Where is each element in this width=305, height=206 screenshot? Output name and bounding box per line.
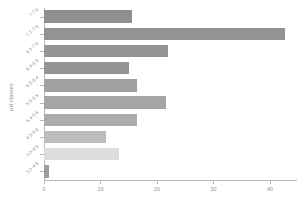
bar (44, 148, 119, 160)
bar-row (44, 96, 297, 108)
bar (44, 131, 106, 143)
bar-row (44, 28, 297, 40)
x-axis-tick (270, 180, 271, 184)
y-axis-tick-label: 6.4-6.5 (25, 58, 40, 72)
x-axis-tick (213, 180, 214, 184)
bar-row (44, 79, 297, 91)
bar (44, 10, 132, 22)
bar (44, 114, 137, 126)
bar-row (44, 148, 297, 160)
bar-row (44, 62, 297, 74)
bar (44, 79, 137, 91)
x-axis-tick-label: 30 (210, 186, 216, 192)
y-axis-tick (40, 137, 44, 138)
y-axis-tick (40, 103, 44, 104)
bar (44, 28, 285, 40)
y-axis-tick-label: 3.5-4.5 (25, 144, 40, 158)
y-axis-tick (40, 120, 44, 121)
bar (44, 62, 129, 74)
y-axis-tick-label: 3.5-4.5 (25, 161, 40, 175)
y-axis-tick-labels: 7-7.67.1-7.56.5-7.56.4-6.55.5-6.45.5-5.5… (0, 0, 44, 172)
bar-row (44, 114, 297, 126)
y-axis-tick-label: 5.5-5.5 (25, 92, 40, 106)
x-axis-tick (157, 180, 158, 184)
y-axis-tick (40, 34, 44, 35)
bar (44, 165, 49, 177)
y-axis-tick (40, 17, 44, 18)
bar (44, 45, 168, 57)
bar-row (44, 45, 297, 57)
x-axis-tick (100, 180, 101, 184)
x-axis-line (44, 180, 297, 181)
y-axis-tick (40, 68, 44, 69)
y-axis-tick-label: 7.1-7.5 (25, 23, 40, 37)
y-axis-tick (40, 85, 44, 86)
bar-row (44, 131, 297, 143)
x-axis-tick-label: 10 (97, 186, 103, 192)
y-axis-tick-label: 5.4-5.5 (25, 109, 40, 123)
x-axis-tick-label: 40 (267, 186, 273, 192)
x-axis-tick (44, 180, 45, 184)
plot-area (44, 8, 297, 180)
bar-chart: pH classes 7-7.67.1-7.56.5-7.56.4-6.55.5… (0, 0, 305, 206)
y-axis-tick (40, 154, 44, 155)
bar-row (44, 10, 297, 22)
y-axis-tick-label: 5.5-6.4 (25, 75, 40, 89)
y-axis-tick-label: 4.5-5.5 (25, 127, 40, 141)
y-axis-tick (40, 171, 44, 172)
bar (44, 96, 166, 108)
x-axis-tick-label: 20 (154, 186, 160, 192)
x-axis-tick-label: 0 (43, 186, 46, 192)
y-axis-tick-label: 7-7.6 (28, 6, 40, 17)
y-axis-tick (40, 51, 44, 52)
y-axis-tick-label: 6.5-7.5 (25, 41, 40, 55)
bar-row (44, 165, 297, 177)
